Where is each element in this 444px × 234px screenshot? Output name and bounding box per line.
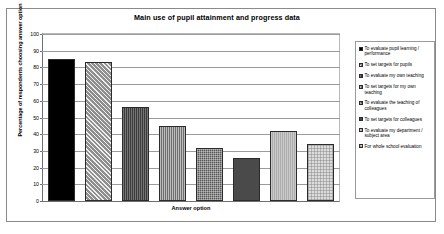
chart-legend: To evaluate pupil learning / performance…	[355, 41, 435, 199]
y-tick-mark	[40, 151, 42, 152]
bar	[307, 144, 334, 201]
legend-item: For whole school evaluation	[359, 144, 432, 149]
y-tick-label: 40	[33, 131, 39, 137]
bar	[159, 126, 186, 201]
legend-item: To evaluate my department / subject area	[359, 128, 432, 139]
legend-item: To set targets for pupils	[359, 62, 432, 67]
chart-container: Main use of pupil attainment and progres…	[6, 8, 436, 222]
legend-label: For whole school evaluation	[365, 144, 422, 149]
legend-swatch	[359, 85, 363, 89]
legend-label: To set targets for pupils	[365, 62, 413, 67]
y-tick-mark	[40, 201, 42, 202]
legend-item: To evaluate my own teaching	[359, 73, 432, 78]
y-tick-mark	[40, 134, 42, 135]
legend-swatch	[359, 144, 363, 148]
y-tick-label: 100	[30, 31, 39, 37]
legend-item: To set targets for my own teaching	[359, 84, 432, 95]
legend-item: To evaluate the teaching of colleagues	[359, 100, 432, 111]
legend-label: To evaluate pupil learning / performance	[365, 46, 433, 57]
legend-swatch	[359, 117, 363, 121]
legend-swatch	[359, 63, 363, 67]
y-tick-label: 30	[33, 148, 39, 154]
chart-title: Main use of pupil attainment and progres…	[67, 13, 367, 22]
y-tick-mark	[40, 34, 42, 35]
bar	[85, 62, 112, 201]
y-tick-mark	[40, 168, 42, 169]
legend-item: To evaluate pupil learning / performance	[359, 46, 432, 57]
y-tick-label: 0	[36, 198, 39, 204]
legend-label: To set targets for my own teaching	[365, 84, 433, 95]
legend-swatch	[359, 74, 363, 78]
bar	[48, 59, 75, 201]
y-tick-label: 10	[33, 181, 39, 187]
bar	[233, 158, 260, 201]
legend-swatch	[359, 47, 363, 51]
y-tick-mark	[40, 184, 42, 185]
legend-item: To set targets for colleagues	[359, 117, 432, 122]
y-tick-mark	[40, 51, 42, 52]
legend-label: To evaluate my department / subject area	[365, 128, 433, 139]
y-tick-label: 90	[33, 48, 39, 54]
y-tick-label: 50	[33, 115, 39, 121]
y-tick-label: 20	[33, 165, 39, 171]
legend-swatch	[359, 101, 363, 105]
y-tick-mark	[40, 118, 42, 119]
bar-series	[43, 34, 339, 201]
legend-label: To evaluate the teaching of colleagues	[365, 100, 433, 111]
y-tick-mark	[40, 101, 42, 102]
y-axis-label: Percentage of respondents choosing answe…	[17, 0, 23, 155]
bar	[196, 148, 223, 201]
y-tick-label: 80	[33, 64, 39, 70]
plot-area: 1009080706050403020100	[42, 33, 340, 202]
y-tick-mark	[40, 67, 42, 68]
bar	[270, 131, 297, 201]
y-tick-label: 60	[33, 98, 39, 104]
x-axis-label: Answer option	[42, 205, 340, 211]
bar	[122, 107, 149, 201]
y-tick-mark	[40, 84, 42, 85]
legend-label: To set targets for colleagues	[365, 117, 422, 122]
legend-label: To evaluate my own teaching	[365, 73, 424, 78]
legend-swatch	[359, 128, 363, 132]
y-tick-label: 70	[33, 81, 39, 87]
